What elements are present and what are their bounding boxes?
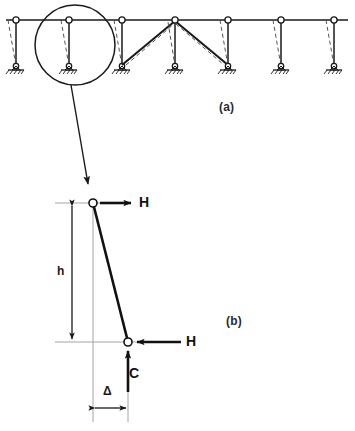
detail-leader-arrow [71,85,88,184]
force-label-h-top: H [139,194,149,210]
structural-figure: (a) (b) H H C h Δ [0,0,355,431]
pin-joint-top [13,17,19,23]
dimension-label-height: h [57,264,64,278]
brace-deflected-left [126,24,174,65]
brace-diagonal-left [122,21,175,65]
brace-deflected-right [176,24,224,65]
panel-caption-a: (a) [219,100,234,114]
pin-joint-top [278,17,284,23]
brace-diagonal-right [175,21,228,65]
frame-column-7 [324,17,342,74]
frame-column-2 [59,17,77,74]
force-label-h-bottom: H [186,333,196,349]
pin-joint-top [225,17,231,23]
force-label-c: C [129,365,139,381]
column-deflected-shape [8,20,16,66]
column-deflected-shape [61,20,69,66]
panel-a-frame [6,5,348,184]
frame-column-6 [271,17,289,74]
dimension-label-delta: Δ [103,384,112,398]
hinge-top [89,199,97,207]
column-deflected-shape [326,20,334,66]
frame-column-5 [218,17,236,74]
panel-caption-b: (b) [226,314,242,328]
pin-joint-top [119,17,125,23]
hinge-bottom [124,338,132,346]
pin-joint-top [331,17,337,23]
panel-b-free-body [55,199,181,422]
figure-canvas [0,0,355,431]
frame-column-1 [6,17,24,74]
column-deflected-shape [273,20,281,66]
leaning-column-member [93,203,128,342]
pin-joint-top [172,17,178,23]
pin-joint-top [66,17,72,23]
